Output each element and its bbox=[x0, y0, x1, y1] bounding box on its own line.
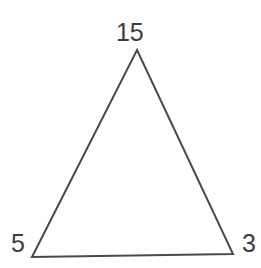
vertex-label-bottom-left: 5 bbox=[11, 231, 25, 256]
vertex-label-bottom-right: 3 bbox=[242, 231, 256, 256]
vertex-label-apex: 15 bbox=[116, 20, 143, 45]
triangle-outline bbox=[32, 50, 233, 257]
triangle-figure: 15 5 3 bbox=[0, 0, 261, 268]
